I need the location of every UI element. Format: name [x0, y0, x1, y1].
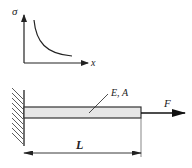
force-label: F — [163, 97, 171, 109]
fixed-wall — [12, 88, 24, 146]
length-label: L — [75, 138, 83, 152]
stress-curve — [34, 20, 72, 56]
bar — [24, 107, 141, 118]
wall-hatching — [12, 88, 23, 144]
x-axis-label: x — [90, 57, 96, 68]
bar-diagram: σ x E, A F L — [0, 0, 192, 168]
property-label: E, A — [110, 87, 129, 98]
y-axis-label: σ — [12, 5, 18, 17]
stress-graph: σ x — [12, 5, 96, 68]
